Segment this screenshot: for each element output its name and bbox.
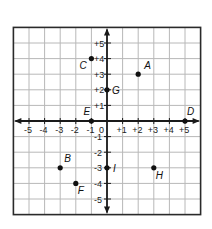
x-tick-label: -5: [24, 125, 32, 135]
point-marker-icon: [58, 165, 63, 170]
coordinate-plane: -5-4-3-2-1+1+2+3+4+5+5+4+3+2+1-1-2-3-4-5…: [0, 0, 212, 229]
x-tick-label: +4: [163, 125, 173, 135]
x-tick-label: -3: [55, 125, 63, 135]
point-label: A: [143, 60, 151, 71]
point-marker-icon: [89, 118, 94, 123]
y-tick-label: -3: [94, 163, 102, 173]
x-tick-label: +3: [148, 125, 158, 135]
point-label: B: [64, 153, 71, 164]
y-tick-label: -4: [94, 179, 102, 189]
y-axis-up-arrow-icon: [104, 28, 110, 35]
y-tick-label: +4: [94, 54, 104, 64]
y-axis-down-arrow-icon: [104, 207, 110, 214]
x-tick-label: +1: [117, 125, 127, 135]
point-marker-icon: [89, 56, 94, 61]
y-tick-label: -5: [94, 195, 102, 205]
point-label: D: [187, 106, 194, 117]
x-tick-label: +2: [132, 125, 142, 135]
x-axis-left-arrow-icon: [14, 118, 21, 124]
y-tick-label: +3: [94, 70, 104, 80]
point-label: F: [78, 185, 85, 196]
point-label: H: [156, 170, 164, 181]
y-tick-label: +1: [94, 101, 104, 111]
x-tick-label: -4: [40, 125, 48, 135]
point-label: C: [79, 60, 87, 71]
point-marker-icon: [104, 87, 109, 92]
y-tick-label: -2: [94, 148, 102, 158]
point-marker-icon: [182, 118, 187, 123]
x-tick-label: +5: [179, 125, 189, 135]
point-marker-icon: [136, 72, 141, 77]
y-tick-label: +2: [94, 85, 104, 95]
point-label: I: [113, 163, 116, 174]
point-label: E: [83, 106, 90, 117]
y-tick-label: +5: [94, 39, 104, 49]
point-label: G: [112, 85, 120, 96]
origin-label: 0: [99, 125, 104, 135]
axes: [14, 28, 199, 213]
x-axis-right-arrow-icon: [193, 118, 200, 124]
x-tick-label: -2: [71, 125, 79, 135]
point-marker-icon: [104, 165, 109, 170]
